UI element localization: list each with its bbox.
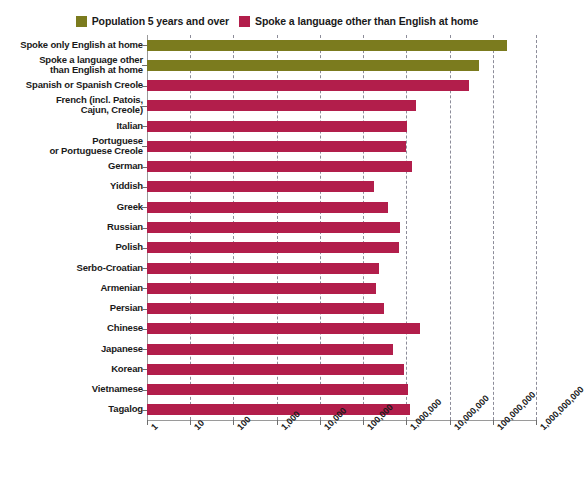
x-tick-label: 10,000	[322, 406, 349, 433]
x-tick-label: 100	[235, 414, 253, 432]
x-tick-label: 10	[192, 418, 206, 432]
x-tick-label: 1	[149, 421, 160, 432]
x-tick-label: 10,000,000	[452, 393, 491, 432]
x-tick-label: 1,000,000,000	[538, 384, 586, 432]
x-tick-label: 1,000,000	[408, 397, 443, 432]
x-tick-label: 100,000,000	[495, 390, 537, 432]
x-tick-label: 100,000	[365, 402, 395, 432]
x-tick-label: 1,000	[279, 409, 302, 432]
